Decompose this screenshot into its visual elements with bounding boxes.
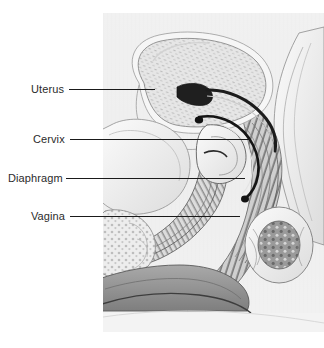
label-uterus: Uterus [31, 83, 64, 95]
pelvis-cross-section-illustration [103, 13, 324, 332]
label-vagina: Vagina [31, 210, 65, 222]
anatomical-figure: Uterus Cervix Diaphragm Vagina [0, 0, 324, 348]
illustration-panel [103, 13, 324, 332]
anal-canal-region [245, 207, 313, 283]
label-diaphragm: Diaphragm [8, 172, 63, 184]
label-cervix: Cervix [33, 133, 65, 145]
